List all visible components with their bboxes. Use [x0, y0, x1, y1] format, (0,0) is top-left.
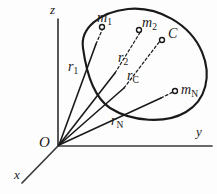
vector-label-rc: rC — [127, 69, 139, 85]
x-axis — [22, 146, 58, 183]
center-of-mass-label-C: C — [168, 27, 177, 41]
mass-label-mN-base: m — [181, 82, 191, 97]
marker-C — [160, 38, 165, 43]
vector-label-r1: r1 — [68, 60, 78, 76]
mass-label-m2-sub: 2 — [152, 22, 157, 32]
vector-r1-dashed — [96, 28, 103, 44]
vector-label-r2: r2 — [118, 51, 128, 67]
mass-label-m1-sub: 1 — [107, 17, 112, 27]
marker-m2 — [137, 28, 142, 33]
axis-label-z: z — [50, 3, 55, 16]
axes-group — [22, 19, 212, 183]
vector-label-r2-sub: 2 — [123, 57, 128, 67]
mass-label-mN: mN — [181, 83, 198, 99]
mass-label-m2: m2 — [142, 16, 157, 32]
vector-rN-dashed — [161, 92, 173, 98]
physics-diagram: z y x O m1 m2 C mN r1 r2 rC rN — [0, 0, 217, 194]
mass-label-m1-base: m — [97, 10, 107, 25]
marker-mN — [173, 89, 178, 94]
axis-label-y: y — [196, 125, 202, 138]
vector-label-rN-sub: N — [116, 120, 123, 130]
vector-label-rN: rN — [111, 114, 123, 130]
vector-label-r1-sub: 1 — [73, 66, 78, 76]
vector-label-rc-sub: C — [132, 75, 138, 85]
origin-label-O: O — [39, 135, 50, 150]
mass-label-mN-sub: N — [191, 89, 198, 99]
mass-label-m1: m1 — [97, 11, 112, 27]
mass-label-m2-base: m — [142, 15, 152, 30]
vector-r2-solid — [59, 73, 115, 145]
axis-label-x: x — [14, 168, 20, 181]
